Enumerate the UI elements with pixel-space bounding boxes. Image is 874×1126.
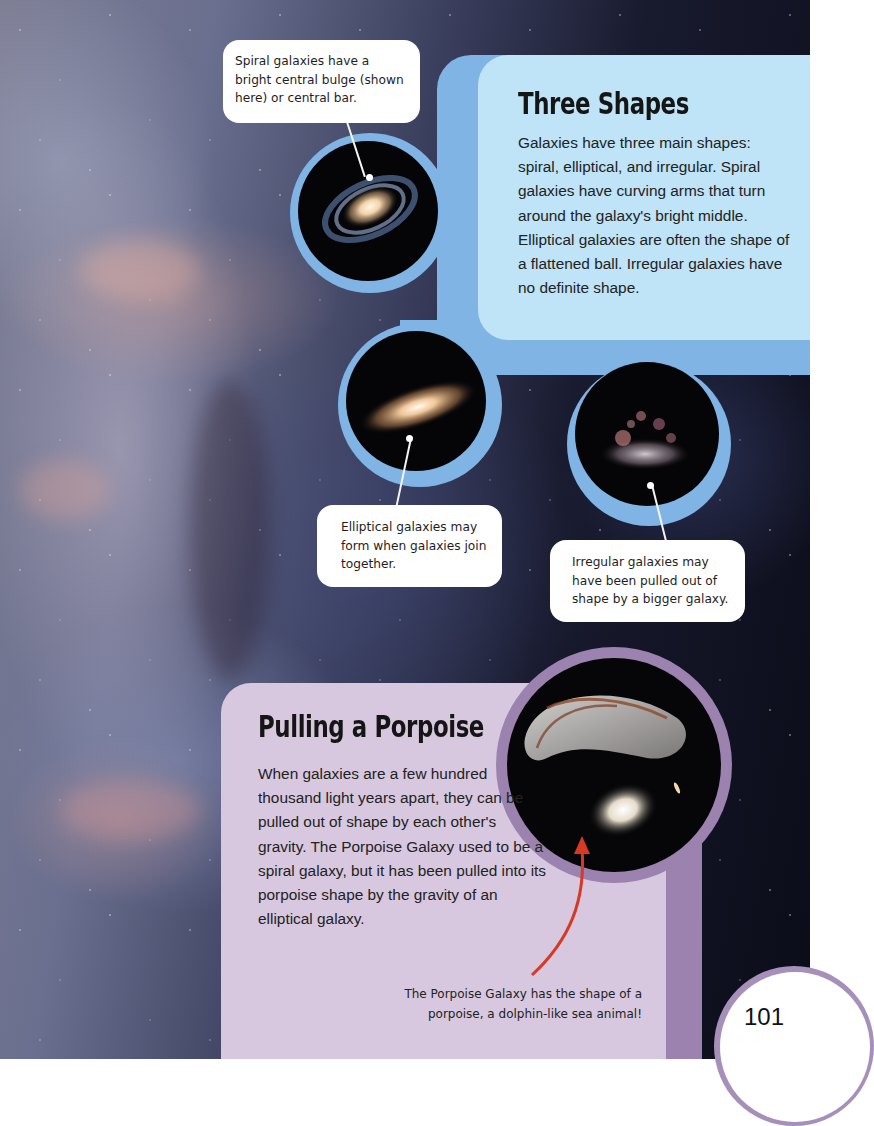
spiral-galaxy-icon [298, 141, 438, 281]
caption-text: Spiral galaxies have a bright central bu… [235, 54, 404, 105]
red-arrow-icon [520, 830, 600, 980]
leader-dot [366, 174, 373, 181]
spiral-galaxy-image [298, 141, 438, 281]
dust-lane [190, 380, 270, 680]
leader-dot [406, 435, 413, 442]
nebula-glow [60, 780, 200, 840]
elliptical-galaxy-image [346, 331, 486, 471]
section-body: Galaxies have three main shapes: spiral,… [518, 131, 792, 300]
leader-dot [647, 482, 654, 489]
page-number-badge [720, 972, 870, 1122]
caption-text: Elliptical galaxies may form when galaxi… [341, 520, 486, 571]
caption-text: Irregular galaxies may have been pulled … [572, 555, 728, 606]
irregular-galaxy-caption: Irregular galaxies may have been pulled … [550, 540, 745, 622]
porpoise-caption: The Porpoise Galaxy has the shape of a p… [380, 984, 642, 1024]
nebula-glow [20, 460, 110, 520]
elliptical-galaxy-caption: Elliptical galaxies may form when galaxi… [317, 505, 502, 587]
elliptical-galaxy-icon [346, 331, 486, 471]
nebula-glow [80, 240, 200, 300]
page-number: 101 [744, 1003, 784, 1031]
section-title: Pulling a Porpoise [258, 708, 496, 744]
porpoise-body-box: When galaxies are a few hundred thousand… [258, 762, 548, 931]
spiral-galaxy-caption: Spiral galaxies have a bright central bu… [223, 40, 420, 123]
three-shapes-panel: Three Shapes Galaxies have three main sh… [478, 55, 810, 340]
section-body: When galaxies are a few hundred thousand… [258, 762, 548, 931]
porpoise-title-box: Pulling a Porpoise [258, 708, 548, 754]
section-title: Three Shapes [518, 85, 743, 121]
